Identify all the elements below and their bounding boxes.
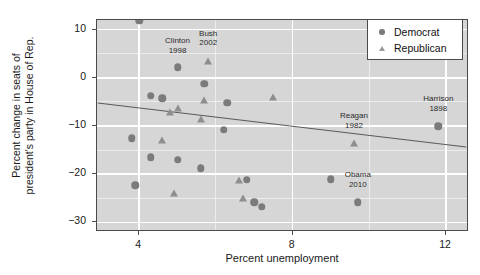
x-tick-mark xyxy=(138,231,139,235)
data-point-democrat xyxy=(224,99,232,107)
x-axis-title: Percent unemployment xyxy=(96,252,468,264)
annotation-label: Clinton 1998 xyxy=(165,36,190,55)
legend-item-democrat: Democrat xyxy=(368,24,462,40)
x-tick-label: 4 xyxy=(135,238,141,250)
data-point-democrat xyxy=(220,126,228,134)
legend-label-republican: Republican xyxy=(389,42,447,54)
data-point-democrat xyxy=(435,122,443,130)
y-tick-label: 10 xyxy=(0,22,86,34)
data-point-democrat xyxy=(128,134,136,142)
circle-marker-icon xyxy=(375,29,389,35)
y-tick-label: −20 xyxy=(0,166,86,178)
data-point-democrat xyxy=(243,176,251,184)
data-point-democrat xyxy=(201,80,209,88)
annotation-label: Harrison 1898 xyxy=(423,94,453,113)
triangle-marker-icon xyxy=(375,46,389,51)
data-point-republican xyxy=(174,105,182,112)
data-point-democrat xyxy=(354,198,362,206)
x-tick-label: 12 xyxy=(439,238,451,250)
y-axis-ticks: 100−10−20−30 xyxy=(0,0,92,275)
data-point-republican xyxy=(170,190,178,197)
x-tick-label: 8 xyxy=(289,238,295,250)
data-point-republican xyxy=(197,115,205,122)
annotation-label: Bush 2002 xyxy=(199,29,217,48)
data-point-republican xyxy=(235,177,243,184)
data-point-republican xyxy=(269,94,277,101)
y-tick-label: 0 xyxy=(0,70,86,82)
data-point-republican xyxy=(350,139,358,146)
data-point-democrat xyxy=(197,165,205,173)
data-point-democrat xyxy=(132,182,140,190)
data-point-democrat xyxy=(147,92,155,100)
data-point-republican xyxy=(158,137,166,144)
scatter-chart: Percent change in seats of president's p… xyxy=(0,0,480,275)
data-point-democrat xyxy=(250,198,258,206)
data-point-democrat xyxy=(327,175,335,183)
data-point-democrat xyxy=(174,156,182,164)
y-tick-label: −10 xyxy=(0,118,86,130)
data-point-democrat xyxy=(174,63,182,71)
annotation-label: Obama 2010 xyxy=(345,170,371,189)
y-tick-label: −30 xyxy=(0,214,86,226)
data-point-republican xyxy=(200,96,208,103)
annotation-label: Reagan 1982 xyxy=(340,111,368,130)
data-point-democrat xyxy=(158,94,166,102)
data-point-republican xyxy=(239,195,247,202)
data-point-democrat xyxy=(258,203,266,211)
x-tick-mark xyxy=(292,231,293,235)
legend-box: Democrat Republican xyxy=(367,19,463,60)
legend-label-democrat: Democrat xyxy=(389,26,440,38)
data-point-democrat xyxy=(147,154,155,162)
data-point-democrat xyxy=(135,19,143,25)
data-point-republican xyxy=(166,108,174,115)
data-point-republican xyxy=(204,58,212,65)
legend-item-republican: Republican xyxy=(368,40,462,56)
x-tick-mark xyxy=(445,231,446,235)
